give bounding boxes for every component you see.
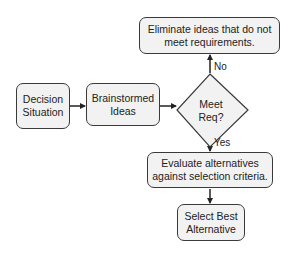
meet-req-label-wrap: Meet Req? <box>185 96 237 126</box>
brainstormed-ideas-label: Brainstormed Ideas <box>92 92 154 118</box>
brainstormed-ideas-node: Brainstormed Ideas <box>86 83 160 126</box>
select-best-alternative-node: Select Best Alternative <box>177 204 245 241</box>
select-best-alternative-label: Select Best Alternative <box>184 210 237 236</box>
edge-label-no: No <box>214 61 227 72</box>
eliminate-ideas-node: Eliminate ideas that do not meet require… <box>139 17 280 54</box>
meet-req-label: Meet Req? <box>198 98 223 124</box>
edge-label-yes: Yes <box>214 137 230 148</box>
evaluate-alternatives-node: Evaluate alternatives against selection … <box>147 152 273 188</box>
decision-situation-node: Decision Situation <box>16 83 70 129</box>
flowchart-canvas: Eliminate ideas that do not meet require… <box>0 0 293 255</box>
evaluate-alternatives-label: Evaluate alternatives against selection … <box>152 157 268 183</box>
eliminate-ideas-label: Eliminate ideas that do not meet require… <box>148 23 272 49</box>
decision-situation-label: Decision Situation <box>23 93 64 119</box>
